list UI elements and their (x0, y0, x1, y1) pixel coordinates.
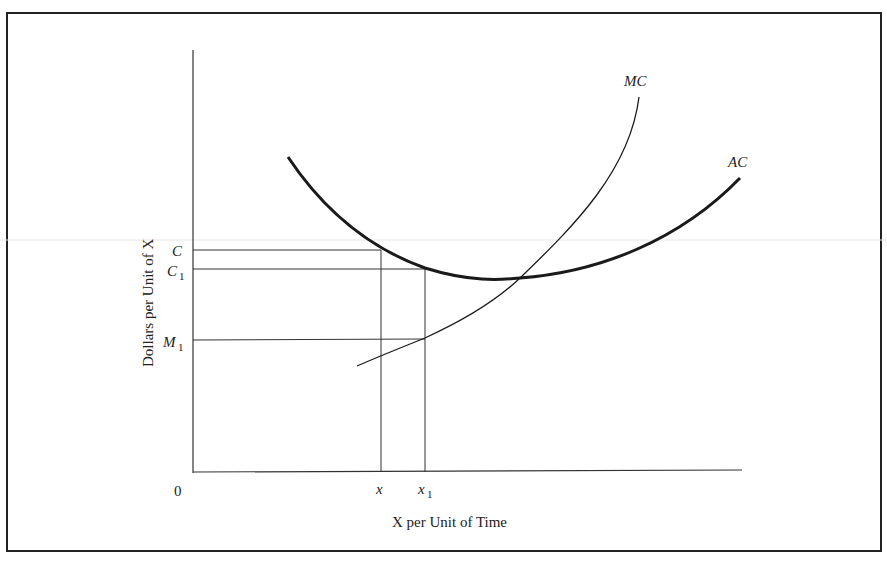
cost-curves-figure: MC AC C C 1 M 1 0 x x 1 X per Unit of Ti… (0, 0, 887, 563)
ac-label: AC (727, 154, 748, 170)
x-tick-x1-sub: 1 (427, 488, 433, 500)
origin-label: 0 (174, 483, 182, 499)
x-tick-x1: x (417, 481, 425, 497)
y-axis-title: Dollars per Unit of X (140, 239, 156, 367)
figure-frame (7, 13, 881, 551)
x-tick-x: x (375, 481, 383, 497)
y-tick-c: C (172, 243, 183, 259)
y-tick-m1: M (162, 334, 177, 350)
y-tick-m1-sub: 1 (178, 341, 184, 353)
x-axis (193, 470, 742, 472)
mc-curve (357, 97, 639, 366)
ac-curve (288, 157, 740, 279)
y-tick-c1-sub: 1 (179, 270, 185, 282)
y-tick-c1: C (167, 263, 178, 279)
guide-m1-horizontal (193, 339, 425, 340)
x-axis-title: X per Unit of Time (392, 514, 507, 530)
mc-label: MC (623, 73, 647, 89)
